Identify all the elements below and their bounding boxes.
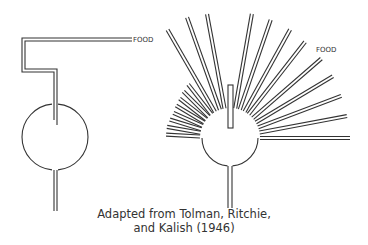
sunburst-path-wall xyxy=(256,77,333,123)
sunburst-path-wall xyxy=(237,14,254,109)
blocked-original-path xyxy=(228,85,233,128)
caption-line-2: and Kalish (1946) xyxy=(0,221,368,235)
right-food-label: FOOD xyxy=(316,46,336,54)
right-maze-diagram xyxy=(166,14,350,208)
sunburst-path-wall xyxy=(259,97,342,128)
left-food-label: FOOD xyxy=(133,36,153,44)
sunburst-path-wall xyxy=(252,57,321,117)
sunburst-path-wall xyxy=(209,14,226,108)
sunburst-path-wall xyxy=(234,14,251,109)
left-corridor-inner-wall xyxy=(25,41,132,125)
sunburst-path-wall xyxy=(254,60,323,120)
sunburst-path-wall xyxy=(255,75,332,121)
sunburst-path-wall xyxy=(166,136,200,138)
sunburst-path-wall xyxy=(259,115,346,131)
left-maze-diagram xyxy=(22,38,132,211)
sunburst-path-wall xyxy=(241,20,272,110)
figure-caption: Adapted from Tolman, Ritchie, and Kalish… xyxy=(0,207,368,235)
sunburst-path-wall xyxy=(188,17,221,109)
right-circle-chamber xyxy=(202,138,258,166)
sunburst-path-wall xyxy=(206,14,223,108)
caption-line-1: Adapted from Tolman, Ritchie, xyxy=(0,207,368,221)
left-circle-chamber xyxy=(22,104,88,170)
